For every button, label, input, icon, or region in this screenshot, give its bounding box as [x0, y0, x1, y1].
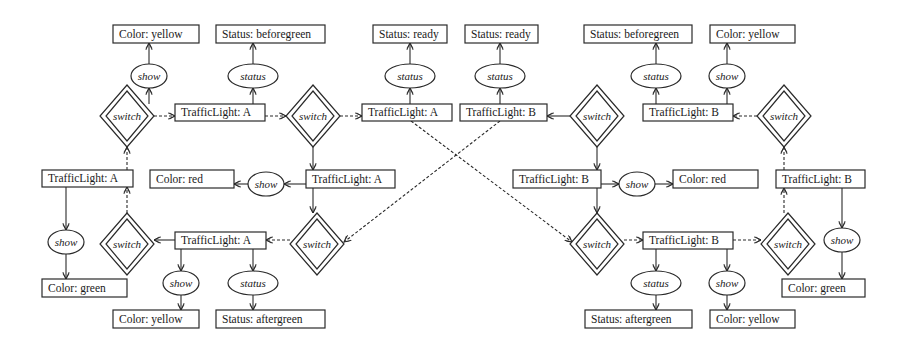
switch-rule-node: switch — [286, 85, 340, 147]
attribute-node: Status: aftergreen — [216, 310, 325, 328]
node-label: TrafficLight: A — [181, 234, 252, 247]
traffic-light-node: TrafficLight: A — [42, 170, 133, 187]
node-label: Color: red — [156, 173, 203, 185]
node-label: Status: beforegreen — [222, 28, 311, 41]
switch-label: switch — [583, 238, 612, 250]
attribute-node: Color: green — [42, 279, 127, 297]
node-label: TrafficLight: B — [782, 173, 852, 186]
node-label: TrafficLight: B — [649, 106, 719, 119]
traffic-light-node: TrafficLight: A — [175, 232, 266, 249]
switch-rule-node: switch — [570, 85, 624, 147]
status-operation-node: status — [631, 271, 681, 295]
operation-label: status — [487, 70, 513, 82]
operation-label: status — [240, 277, 266, 289]
switch-label: switch — [113, 238, 142, 250]
show-operation-node: show — [163, 271, 199, 295]
switch-rule-node: switch — [761, 213, 815, 275]
attribute-node: Color: yellow — [710, 25, 795, 43]
switch-label: switch — [303, 238, 332, 250]
node-label: Color: yellow — [716, 313, 780, 326]
node-label: Status: ready — [379, 28, 439, 41]
operation-label: show — [831, 234, 854, 246]
traffic-light-node: TrafficLight: B — [643, 232, 733, 249]
operation-label: status — [643, 70, 669, 82]
attribute-node: Color: green — [782, 279, 865, 297]
traffic-light-node: TrafficLight: A — [306, 170, 395, 188]
traffic-light-graph: Color: yellowStatus: beforegreenStatus: … — [0, 0, 908, 347]
node-label: Status: ready — [471, 28, 531, 41]
operation-label: show — [170, 277, 193, 289]
attribute-node: Status: ready — [465, 25, 538, 43]
node-label: TrafficLight: B — [466, 106, 536, 119]
show-operation-node: show — [131, 64, 167, 88]
show-operation-node: show — [48, 230, 84, 254]
switch-rule-node: switch — [757, 85, 811, 147]
show-operation-node: show — [709, 271, 745, 295]
switch-label: switch — [583, 110, 612, 122]
node-label: Status: beforegreen — [590, 28, 679, 41]
operation-label: show — [255, 178, 278, 190]
attribute-node: Status: beforegreen — [584, 25, 692, 43]
show-operation-node: show — [619, 172, 655, 196]
operation-label: status — [643, 277, 669, 289]
show-operation-node: show — [248, 172, 284, 196]
traffic-light-node: TrafficLight: B — [460, 104, 547, 121]
operation-label: show — [716, 277, 739, 289]
node-label: TrafficLight: A — [312, 173, 383, 186]
operation-label: status — [240, 70, 266, 82]
switch-rule-node: switch — [100, 213, 154, 275]
attribute-node: Color: yellow — [710, 310, 795, 328]
node-label: Color: green — [788, 282, 846, 295]
traffic-light-node: TrafficLight: A — [175, 104, 265, 121]
nodes-layer: Color: yellowStatus: beforegreenStatus: … — [42, 25, 865, 328]
node-label: Color: yellow — [119, 313, 183, 326]
node-label: Color: yellow — [119, 28, 183, 41]
diagram-canvas: Color: yellowStatus: beforegreenStatus: … — [0, 0, 908, 347]
node-label: TrafficLight: B — [519, 173, 589, 186]
show-operation-node: show — [709, 64, 745, 88]
node-label: Color: green — [48, 282, 106, 295]
traffic-light-node: TrafficLight: B — [513, 170, 601, 188]
node-label: Status: aftergreen — [591, 313, 672, 326]
switch-rule-node: switch — [570, 213, 624, 275]
attribute-node: Color: yellow — [113, 310, 199, 328]
traffic-light-node: TrafficLight: B — [643, 104, 733, 121]
switch-label: switch — [774, 238, 803, 250]
attribute-node: Status: beforegreen — [216, 25, 325, 43]
node-label: TrafficLight: B — [649, 234, 719, 247]
node-label: TrafficLight: A — [48, 172, 119, 185]
operation-label: show — [138, 70, 161, 82]
attribute-node: Status: ready — [373, 25, 447, 43]
switch-rule-node: switch — [100, 85, 154, 147]
status-operation-node: status — [385, 64, 435, 88]
switch-label: switch — [299, 110, 328, 122]
node-label: Color: yellow — [716, 28, 780, 41]
attribute-node: Color: red — [673, 170, 758, 188]
show-operation-node: show — [824, 228, 860, 252]
operation-label: show — [626, 178, 649, 190]
operation-label: show — [716, 70, 739, 82]
operation-label: show — [55, 236, 78, 248]
switch-label: switch — [113, 110, 142, 122]
node-label: Status: aftergreen — [222, 313, 303, 326]
traffic-light-node: TrafficLight: A — [362, 104, 452, 121]
switch-label: switch — [770, 110, 799, 122]
attribute-node: Status: aftergreen — [585, 310, 692, 328]
attribute-node: Color: yellow — [113, 25, 199, 43]
status-operation-node: status — [228, 271, 278, 295]
status-operation-node: status — [475, 64, 525, 88]
status-operation-node: status — [228, 64, 278, 88]
operation-label: status — [397, 70, 423, 82]
node-label: Color: red — [679, 173, 726, 185]
switch-rule-node: switch — [290, 213, 344, 275]
node-label: TrafficLight: A — [368, 106, 439, 119]
node-label: TrafficLight: A — [181, 106, 252, 119]
attribute-node: Color: red — [150, 170, 234, 188]
status-operation-node: status — [631, 64, 681, 88]
traffic-light-node: TrafficLight: B — [776, 170, 865, 188]
